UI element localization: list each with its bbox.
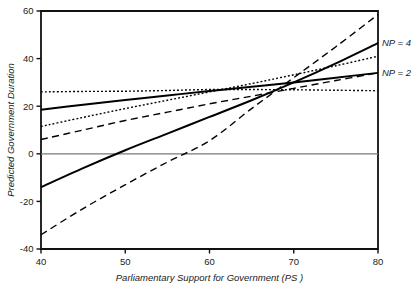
plot-frame [41,11,378,249]
y-axis-title: Predicted Government Duration [5,63,16,197]
y-tick-label: 40 [23,53,34,64]
series-line-1 [41,43,378,187]
y-tick-label: -40 [20,243,34,254]
y-tick-label: 0 [28,148,33,159]
y-tick-label: 20 [23,101,34,112]
line-chart: -40-2002040604050607080Parliamentary Sup… [0,0,419,290]
series-label-0: NP = 2 [382,67,412,78]
x-tick-label: 50 [120,256,131,267]
x-tick-label: 60 [204,256,215,267]
x-tick-label: 40 [36,256,47,267]
chart-figure: -40-2002040604050607080Parliamentary Sup… [0,0,419,290]
x-tick-label: 70 [288,256,299,267]
series-label-1: NP = 4 [382,37,411,48]
y-tick-label: 60 [23,5,34,16]
y-tick-label: -20 [20,196,34,207]
series-line-5 [41,15,378,235]
y-axis-title-group: Predicted Government Duration [5,63,16,197]
x-tick-label: 80 [373,256,384,267]
series-line-4 [41,73,378,140]
x-axis-title: Parliamentary Support for Government (PS… [116,272,303,283]
